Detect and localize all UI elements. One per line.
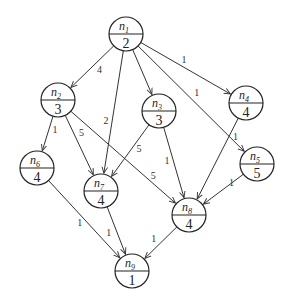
- node-n7: n74: [84, 174, 118, 208]
- node-weight: 1: [129, 273, 136, 288]
- edge-label-n6-n9: 1: [77, 217, 82, 228]
- node-weight: 3: [55, 102, 62, 117]
- edge-label-n1-n2: 4: [97, 64, 102, 75]
- node-name-subscript: 9: [131, 263, 135, 272]
- node-n4: n44: [229, 86, 263, 120]
- nodes-layer: n12n23n33n44n55n64n74n84n91: [20, 17, 274, 288]
- edge-label-n8-n9: 1: [151, 233, 156, 244]
- edge-label-n4-n8: 1: [233, 131, 238, 142]
- edge-n2-n6: [42, 116, 53, 151]
- node-n5: n55: [240, 147, 274, 181]
- node-n8: n84: [172, 198, 206, 232]
- node-weight: 2: [123, 36, 130, 51]
- node-name-subscript: 4: [245, 95, 249, 104]
- node-weight: 4: [186, 217, 193, 232]
- edge-n5-n8: [203, 174, 243, 204]
- node-weight: 3: [156, 113, 163, 128]
- node-n9: n91: [115, 254, 149, 288]
- task-graph-diagram: 42111555111111 n12n23n33n44n55n64n74n84n…: [0, 0, 286, 308]
- edge-n2-n7: [65, 115, 93, 174]
- node-weight: 4: [34, 170, 41, 185]
- edge-label-n2-n7: 5: [79, 127, 84, 138]
- node-name-subscript: 1: [125, 26, 129, 35]
- edge-n3-n7: [112, 125, 149, 177]
- node-n2: n23: [41, 83, 75, 117]
- edge-label-n5-n8: 1: [229, 177, 234, 188]
- edge-n1-n4: [141, 42, 231, 94]
- edges-layer: 42111555111111: [42, 42, 244, 258]
- edge-n1-n2: [71, 46, 114, 88]
- edge-label-n1-n5: 1: [194, 87, 199, 98]
- node-name-subscript: 2: [57, 92, 61, 101]
- edge-label-n2-n6: 1: [52, 124, 57, 135]
- edge-label-n7-n9: 1: [106, 227, 111, 238]
- node-weight: 4: [98, 193, 105, 208]
- edge-n8-n9: [145, 227, 177, 258]
- edge-label-n1-n4: 1: [182, 54, 187, 65]
- edge-label-n3-n7: 5: [136, 143, 141, 154]
- edge-label-n2-n8: 5: [151, 170, 156, 181]
- node-name-subscript: 6: [36, 160, 40, 169]
- node-n6: n64: [20, 151, 54, 185]
- node-weight: 5: [254, 166, 261, 181]
- node-name-subscript: 3: [157, 103, 162, 112]
- node-name-subscript: 8: [188, 207, 192, 216]
- edge-label-n3-n8: 1: [165, 155, 170, 166]
- node-n3: n33: [142, 94, 176, 128]
- node-weight: 4: [243, 105, 250, 120]
- node-name-subscript: 5: [256, 156, 260, 165]
- node-n1: n12: [109, 17, 143, 51]
- edge-label-n1-n7: 2: [104, 115, 109, 126]
